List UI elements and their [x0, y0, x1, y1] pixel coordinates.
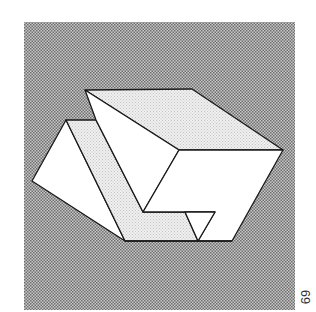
page-number: 69: [299, 289, 313, 305]
folded-block-figure: [0, 0, 316, 312]
